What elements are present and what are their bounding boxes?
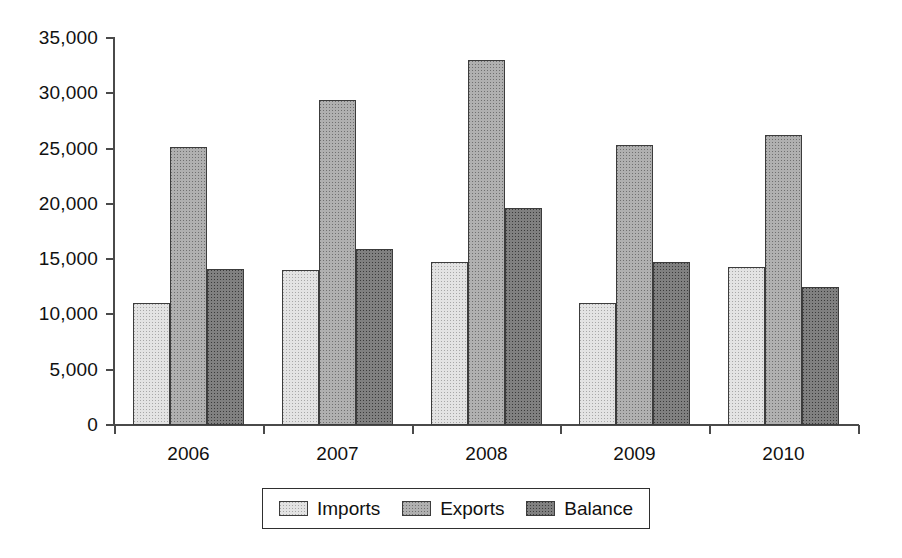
y-axis-tick bbox=[106, 37, 114, 39]
y-axis-tick bbox=[106, 313, 114, 315]
bar-imports-2009 bbox=[579, 303, 616, 425]
x-axis-tick bbox=[858, 425, 860, 434]
x-axis-label-2009: 2009 bbox=[560, 443, 709, 465]
chart-legend: Imports Exports Balance bbox=[262, 488, 650, 529]
bar-imports-2010 bbox=[728, 267, 765, 425]
y-axis-line bbox=[113, 37, 115, 426]
bar-chart: 35,00030,00025,00020,00015,00010,0005,00… bbox=[0, 0, 902, 558]
legend-item-imports: Imports bbox=[279, 499, 380, 519]
bar-exports-2008 bbox=[468, 60, 505, 425]
x-axis-tick bbox=[412, 425, 414, 434]
x-axis-label-2006: 2006 bbox=[114, 443, 263, 465]
bar-exports-2006 bbox=[170, 147, 207, 425]
x-axis-label-2010: 2010 bbox=[709, 443, 858, 465]
bar-imports-2007 bbox=[282, 270, 319, 425]
bar-balance-2009 bbox=[653, 262, 690, 425]
bar-balance-2007 bbox=[356, 249, 393, 425]
bar-balance-2010 bbox=[802, 287, 839, 425]
y-axis-tick-label: 20,000 bbox=[0, 194, 98, 213]
y-axis-tick-label: 10,000 bbox=[0, 304, 98, 323]
x-axis-tick bbox=[114, 425, 116, 434]
exports-swatch-icon bbox=[402, 501, 431, 516]
bar-imports-2008 bbox=[431, 262, 468, 425]
legend-item-exports: Exports bbox=[402, 499, 504, 519]
legend-item-balance: Balance bbox=[526, 499, 633, 519]
bar-balance-2006 bbox=[207, 269, 244, 425]
y-axis-tick-label: 15,000 bbox=[0, 249, 98, 268]
y-axis-tick-label: 5,000 bbox=[0, 360, 98, 379]
imports-swatch-icon bbox=[279, 501, 308, 516]
legend-label-imports: Imports bbox=[317, 499, 380, 519]
x-axis-label-2008: 2008 bbox=[412, 443, 561, 465]
y-axis-tick-label: 0 bbox=[0, 415, 98, 434]
bar-exports-2010 bbox=[765, 135, 802, 425]
bar-imports-2006 bbox=[133, 303, 170, 425]
y-axis-tick-label: 35,000 bbox=[0, 28, 98, 47]
bar-exports-2009 bbox=[616, 145, 653, 425]
y-axis-tick bbox=[106, 369, 114, 371]
y-axis-tick-label: 25,000 bbox=[0, 139, 98, 158]
y-axis-tick-label: 30,000 bbox=[0, 83, 98, 102]
legend-label-balance: Balance bbox=[564, 499, 633, 519]
legend-label-exports: Exports bbox=[440, 499, 504, 519]
x-axis-label-2007: 2007 bbox=[263, 443, 412, 465]
bar-balance-2008 bbox=[505, 208, 542, 425]
bar-exports-2007 bbox=[319, 100, 356, 425]
x-axis-tick bbox=[560, 425, 562, 434]
y-axis-tick bbox=[106, 424, 114, 426]
y-axis-tick bbox=[106, 203, 114, 205]
y-axis-tick bbox=[106, 258, 114, 260]
y-axis-tick bbox=[106, 92, 114, 94]
x-axis-tick bbox=[263, 425, 265, 434]
y-axis-tick bbox=[106, 148, 114, 150]
x-axis-tick bbox=[709, 425, 711, 434]
balance-swatch-icon bbox=[526, 501, 555, 516]
